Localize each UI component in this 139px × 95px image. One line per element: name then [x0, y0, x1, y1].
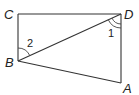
- angle-2-arc: [18, 48, 30, 56]
- angle-label-2: 2: [27, 37, 33, 49]
- angle-label-1: 1: [108, 27, 114, 39]
- label-c: C: [4, 7, 14, 22]
- diagram-canvas: C D B A 2 1: [0, 0, 139, 95]
- label-b: B: [5, 55, 14, 70]
- segment-ba: [18, 61, 121, 83]
- label-a: A: [122, 81, 132, 95]
- label-d: D: [124, 7, 133, 22]
- angle-1-arc-inner: [112, 18, 121, 24]
- segment-bd: [18, 14, 121, 61]
- geometry-diagram: C D B A 2 1: [0, 0, 139, 95]
